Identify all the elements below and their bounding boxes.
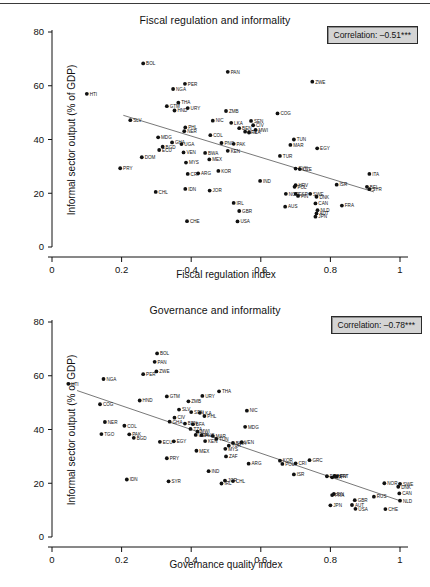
- x-tick-label: 0: [49, 554, 54, 565]
- data-point: ZWE: [310, 80, 325, 85]
- data-point: PHL: [203, 414, 217, 419]
- data-point: EGY: [172, 439, 187, 444]
- y-tick-label: 0: [39, 531, 44, 542]
- data-point: NER: [103, 420, 118, 425]
- data-point-label: ECU: [163, 440, 173, 445]
- data-point-marker: [232, 201, 236, 205]
- data-point-marker: [158, 440, 162, 444]
- data-point-label: SLV: [133, 118, 142, 123]
- data-point: COL: [122, 424, 137, 429]
- data-point-marker: [237, 209, 241, 213]
- data-point: SLV: [128, 118, 142, 123]
- data-point-label: USA: [358, 507, 368, 512]
- data-point: NGA: [102, 377, 118, 382]
- data-point-marker: [185, 219, 189, 223]
- data-point: IND: [258, 179, 271, 184]
- data-point-marker: [186, 172, 190, 176]
- data-point-label: IND: [263, 179, 272, 184]
- data-point-marker: [207, 157, 211, 161]
- data-point-label: DNK: [319, 195, 330, 200]
- data-point: KEN: [226, 149, 240, 154]
- data-point-label: CHL: [236, 479, 246, 484]
- data-point-label: KOR: [221, 169, 232, 174]
- data-point: URY: [186, 106, 200, 111]
- data-point: USA: [354, 507, 369, 512]
- data-point-label: THA: [222, 389, 232, 394]
- data-point-marker: [372, 495, 376, 499]
- data-point-label: ITA: [335, 475, 343, 480]
- data-point-label: CHE: [190, 219, 200, 224]
- data-point: MDG: [156, 135, 172, 140]
- x-tick-label: 0: [49, 264, 54, 275]
- data-point-label: TGO: [104, 432, 114, 437]
- data-point-marker: [211, 434, 215, 438]
- data-point-label: KEN: [231, 149, 240, 154]
- data-point-label: NER: [187, 129, 197, 134]
- data-point: BOL: [141, 61, 155, 66]
- data-point: NIC: [245, 408, 258, 413]
- data-point: CAN: [314, 201, 329, 206]
- data-point-marker: [172, 439, 176, 443]
- data-point-label: ZMB: [191, 399, 201, 404]
- data-point-marker: [122, 424, 126, 428]
- data-point-marker: [184, 161, 188, 165]
- data-point-marker: [310, 80, 314, 84]
- top-rule: [0, 3, 430, 4]
- data-point-marker: [329, 503, 333, 507]
- y-tick-label: 40: [33, 134, 44, 145]
- data-point-marker: [292, 138, 296, 142]
- data-point-label: URY: [205, 394, 215, 399]
- data-point-label: NOR: [387, 481, 398, 486]
- data-point: ARG: [247, 461, 262, 466]
- data-point-label: PRY: [123, 166, 132, 171]
- data-point-marker: [141, 372, 145, 376]
- data-point-label: HTI: [90, 92, 97, 97]
- data-point-marker: [335, 183, 339, 187]
- data-point-label: NLD: [403, 499, 413, 504]
- data-point-marker: [138, 399, 142, 403]
- data-point-marker: [280, 462, 284, 466]
- data-point-label: FRA: [345, 203, 355, 208]
- data-point: CHE: [383, 507, 398, 512]
- data-point-marker: [243, 425, 247, 429]
- data-point-label: URY: [191, 106, 201, 111]
- x-tick-label: 0.8: [324, 264, 337, 275]
- data-point-label: CAN: [318, 201, 328, 206]
- data-point: ITA: [330, 475, 343, 480]
- data-point-label: SYR: [372, 187, 382, 192]
- data-point: COG: [98, 402, 114, 407]
- data-point: GTM: [165, 394, 180, 399]
- data-point: FIN: [296, 194, 308, 199]
- data-point: JPN: [314, 214, 327, 219]
- data-point: GBR: [237, 209, 252, 214]
- data-point-label: DOM: [145, 155, 156, 160]
- data-point: TUR: [278, 154, 293, 159]
- data-point-label: NIC: [216, 118, 225, 123]
- data-point: KEN: [203, 439, 217, 444]
- data-point: ZWE: [155, 369, 170, 374]
- data-point-marker: [182, 151, 186, 155]
- data-point-marker: [85, 92, 89, 96]
- data-point-label: COG: [280, 111, 291, 116]
- data-point: MEX: [195, 449, 210, 454]
- data-point-marker: [284, 192, 288, 196]
- data-point-label: FIN: [301, 194, 308, 199]
- data-point: TUN: [292, 137, 306, 142]
- data-point: MAR: [288, 143, 304, 148]
- data-point-marker: [156, 135, 160, 139]
- data-point: PER: [141, 372, 156, 377]
- data-point-marker: [171, 87, 175, 91]
- data-point-label: CHL: [159, 190, 169, 195]
- data-point-marker: [200, 433, 204, 437]
- data-point: PAN: [226, 70, 240, 75]
- data-point-label: BOL: [146, 61, 156, 66]
- y-tick-label: 80: [33, 316, 44, 327]
- data-point: SYR: [167, 479, 182, 484]
- data-point-marker: [243, 130, 247, 134]
- data-point: MYS: [184, 160, 199, 165]
- data-point-marker: [167, 479, 171, 483]
- data-point: NER: [182, 129, 197, 134]
- data-point-label: CHE: [388, 507, 398, 512]
- data-point-label: GRC: [312, 458, 323, 463]
- data-point-marker: [236, 220, 240, 224]
